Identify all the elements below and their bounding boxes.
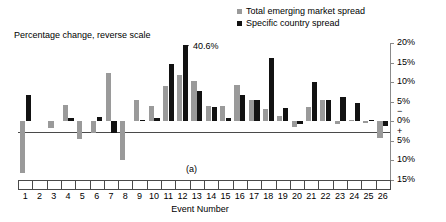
y-tick-label-0%: 0% xyxy=(397,116,410,125)
panel-label: (a) xyxy=(186,164,197,174)
x-tick-15 xyxy=(218,180,219,189)
bar-specific-event-13 xyxy=(197,91,202,121)
x-tick-label-26: 26 xyxy=(375,191,391,202)
bar-total-event-21 xyxy=(306,107,311,121)
bar-total-event-17 xyxy=(249,100,254,122)
chart-figure: Total emerging market spread Specific co… xyxy=(0,0,446,222)
bar-total-event-8 xyxy=(120,121,125,159)
y-axis-sign-plus: + xyxy=(397,127,402,136)
bar-specific-event-23 xyxy=(340,97,345,121)
bar-specific-event-7 xyxy=(111,121,116,133)
y-tick-20% xyxy=(390,43,394,44)
y-tick-label-5%: 5% xyxy=(397,97,410,106)
y-axis-title: Percentage change, reverse scale xyxy=(14,30,151,40)
bar-total-event-24 xyxy=(349,120,354,121)
y-tick-label-15%: 15% xyxy=(397,175,415,184)
bar-total-event-5 xyxy=(77,121,82,139)
x-tick-17 xyxy=(247,180,248,189)
bar-specific-event-22 xyxy=(326,100,331,121)
bar-specific-event-14 xyxy=(212,107,217,121)
bar-specific-event-9 xyxy=(140,120,145,121)
x-tick-8 xyxy=(118,180,119,189)
x-tick-12 xyxy=(175,180,176,189)
x-tick-2 xyxy=(32,180,33,189)
x-tick-7 xyxy=(104,180,105,189)
x-tick-1 xyxy=(18,180,19,189)
y-tick-label-10%: 10% xyxy=(397,77,415,86)
bar-total-event-20 xyxy=(292,121,297,127)
bar-total-event-10 xyxy=(149,106,154,121)
bar-break-arrow-icon xyxy=(183,45,189,54)
bar-specific-event-11 xyxy=(169,64,174,121)
x-tick-24 xyxy=(347,180,348,189)
bar-specific-event-15 xyxy=(226,118,231,121)
x-tick-end xyxy=(390,180,391,189)
bar-specific-event-19 xyxy=(283,108,288,121)
x-tick-25 xyxy=(361,180,362,189)
legend-label-specific: Specific country spread xyxy=(246,18,340,29)
bar-total-event-12 xyxy=(177,75,182,122)
x-tick-9 xyxy=(132,180,133,189)
bar-total-event-18 xyxy=(263,109,268,121)
x-tick-13 xyxy=(190,180,191,189)
bar-specific-event-20 xyxy=(297,121,302,124)
plot-area xyxy=(18,43,390,180)
bar-total-event-3 xyxy=(48,121,53,127)
y-tick-10% xyxy=(390,160,394,161)
bar-specific-event-10 xyxy=(154,118,159,122)
bar-total-event-13 xyxy=(191,81,196,122)
x-tick-14 xyxy=(204,180,205,189)
x-axis-line-bottom xyxy=(18,189,391,190)
x-tick-21 xyxy=(304,180,305,189)
legend-item-specific-country-spread: Specific country spread xyxy=(237,18,365,29)
x-tick-6 xyxy=(90,180,91,189)
legend-swatch-icon-specific xyxy=(237,21,242,26)
x-tick-3 xyxy=(47,180,48,189)
x-tick-16 xyxy=(233,180,234,189)
bar-specific-event-18 xyxy=(269,58,274,122)
bar-total-event-19 xyxy=(277,116,282,121)
y-tick-5% xyxy=(390,141,394,142)
y-tick-10% xyxy=(390,82,394,83)
bar-specific-event-17 xyxy=(254,100,259,122)
zero-baseline xyxy=(18,132,390,133)
bar-total-event-16 xyxy=(234,85,239,122)
bar-total-event-1 xyxy=(20,121,25,173)
bar-specific-event-4 xyxy=(68,118,73,121)
bar-specific-event-1 xyxy=(26,95,31,121)
bar-specific-event-12 xyxy=(183,45,188,121)
bar-total-event-11 xyxy=(163,86,168,121)
y-tick-15% xyxy=(390,63,394,64)
x-tick-4 xyxy=(61,180,62,189)
x-tick-11 xyxy=(161,180,162,189)
bar-total-event-6 xyxy=(91,121,96,132)
bar-total-event-9 xyxy=(134,100,139,121)
bar-total-event-4 xyxy=(63,105,68,121)
y-tick-label-20%: 20% xyxy=(397,38,415,47)
x-tick-10 xyxy=(147,180,148,189)
y-axis-sign-minus: − xyxy=(397,107,402,116)
x-tick-5 xyxy=(75,180,76,189)
y-tick-label-10%: 10% xyxy=(397,155,415,164)
legend-swatch-icon-total xyxy=(237,9,242,14)
annotation-40-6-percent: 40.6% xyxy=(193,41,219,51)
legend-item-total-emerging-market-spread: Total emerging market spread xyxy=(237,6,365,17)
y-tick-label-5%: 5% xyxy=(397,136,410,145)
legend-label-total: Total emerging market spread xyxy=(246,6,365,17)
x-tick-20 xyxy=(290,180,291,189)
x-tick-19 xyxy=(276,180,277,189)
bar-specific-event-16 xyxy=(240,95,245,121)
bar-specific-event-21 xyxy=(312,82,317,122)
bar-total-event-25 xyxy=(363,121,368,123)
y-tick-label-15%: 15% xyxy=(397,58,415,67)
bar-total-event-7 xyxy=(106,73,111,122)
y-tick-5% xyxy=(390,102,394,103)
x-tick-18 xyxy=(261,180,262,189)
y-tick-0% xyxy=(390,121,394,122)
x-tick-22 xyxy=(318,180,319,189)
bar-total-event-15 xyxy=(220,106,225,121)
bar-total-event-14 xyxy=(206,106,211,121)
bar-total-event-22 xyxy=(320,100,325,121)
bar-specific-event-24 xyxy=(355,103,360,122)
bar-specific-event-26 xyxy=(383,121,388,126)
